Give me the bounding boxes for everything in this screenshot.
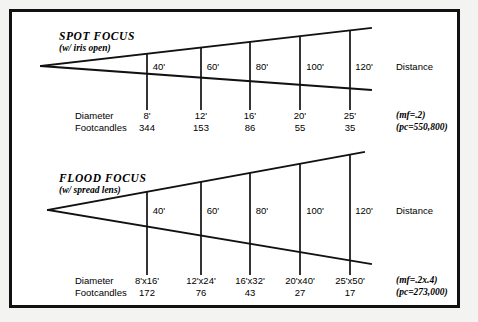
beam-geometry xyxy=(12,12,463,311)
spot-footcandles-100: 55 xyxy=(295,122,306,133)
flood-subheading: (w/ spread lens) xyxy=(59,185,121,195)
flood-footcandles-120: 17 xyxy=(345,287,356,298)
flood-beam-lower-edge xyxy=(48,210,371,264)
flood-diameter-100: 20'x40' xyxy=(285,275,315,286)
flood-distance-100: 100' xyxy=(306,205,324,216)
flood-diameter-60: 12'x24' xyxy=(186,275,216,286)
diagram-frame: SPOT FOCUS (w/ iris open) 40' 60' 80' 10… xyxy=(9,9,460,308)
flood-row-label-diameter: Diameter xyxy=(75,275,114,286)
spot-heading: SPOT FOCUS xyxy=(59,30,135,42)
spot-diameter-40: 8' xyxy=(143,110,150,121)
spot-distance-100: 100' xyxy=(306,61,324,72)
flood-heading: FLOOD FOCUS xyxy=(59,172,146,184)
flood-note-mf: (mf=.2x.4) xyxy=(396,275,437,285)
spot-distance-word: Distance xyxy=(396,61,433,72)
spot-distance-80: 80' xyxy=(256,61,268,72)
flood-distance-60: 60' xyxy=(207,205,219,216)
spot-note-pc: (pc=550,800) xyxy=(396,122,448,132)
flood-diameter-40: 8'x16' xyxy=(135,275,159,286)
spot-distance-40: 40' xyxy=(153,61,165,72)
spot-footcandles-80: 86 xyxy=(245,122,256,133)
flood-distance-80: 80' xyxy=(256,205,268,216)
flood-row-label-footcandles: Footcandles xyxy=(75,287,127,298)
flood-distance-word: Distance xyxy=(396,205,433,216)
spot-row-label-diameter: Diameter xyxy=(75,110,114,121)
diagram-page: SPOT FOCUS (w/ iris open) 40' 60' 80' 10… xyxy=(0,0,478,322)
spot-footcandles-120: 35 xyxy=(345,122,356,133)
flood-distance-120: 120' xyxy=(355,205,373,216)
spot-diameter-120: 25' xyxy=(344,110,356,121)
flood-diameter-120: 25'x50' xyxy=(335,275,365,286)
spot-diameter-80: 16' xyxy=(244,110,256,121)
spot-subheading: (w/ iris open) xyxy=(59,43,111,53)
flood-footcandles-100: 27 xyxy=(295,287,306,298)
diagram-inner: SPOT FOCUS (w/ iris open) 40' 60' 80' 10… xyxy=(12,12,463,311)
spot-diameter-100: 20' xyxy=(294,110,306,121)
spot-diameter-60: 12' xyxy=(195,110,207,121)
spot-distance-120: 120' xyxy=(355,61,373,72)
flood-diameter-80: 16'x32' xyxy=(235,275,265,286)
spot-distance-60: 60' xyxy=(207,61,219,72)
flood-footcandles-40: 172 xyxy=(139,287,155,298)
flood-note-pc: (pc=273,000) xyxy=(396,287,448,297)
spot-note-mf: (mf=.2) xyxy=(396,110,425,120)
flood-footcandles-80: 43 xyxy=(245,287,256,298)
spot-footcandles-40: 344 xyxy=(139,122,155,133)
flood-footcandles-60: 76 xyxy=(196,287,207,298)
flood-distance-40: 40' xyxy=(153,205,165,216)
spot-footcandles-60: 153 xyxy=(193,122,209,133)
spot-row-label-footcandles: Footcandles xyxy=(75,122,127,133)
